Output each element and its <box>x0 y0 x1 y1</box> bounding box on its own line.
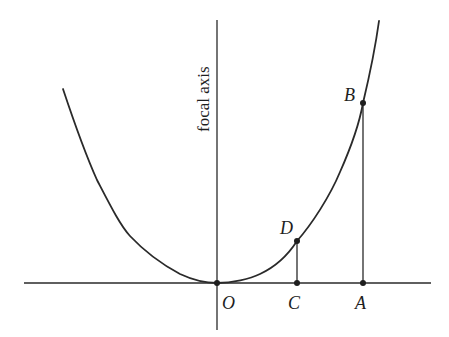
label-o: O <box>222 293 235 313</box>
point-b <box>360 100 366 106</box>
point-o <box>214 280 220 286</box>
focal-axis-label: focal axis <box>194 66 213 132</box>
parabola-curve <box>63 21 379 283</box>
point-c <box>294 280 300 286</box>
point-d <box>294 238 300 244</box>
label-b: B <box>344 85 355 105</box>
label-d: D <box>279 218 293 238</box>
point-a <box>360 280 366 286</box>
diagram-canvas: O C A D B focal axis <box>0 0 449 337</box>
parabola-diagram: O C A D B focal axis <box>0 0 449 337</box>
label-c: C <box>288 293 301 313</box>
label-a: A <box>354 293 367 313</box>
